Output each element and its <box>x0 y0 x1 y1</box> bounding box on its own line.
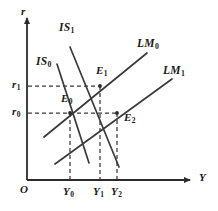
x-tick-Y0-subscript: 0 <box>70 190 74 199</box>
equilibrium-e2-subscript: 2 <box>132 116 136 125</box>
point-e2 <box>115 111 119 115</box>
curve-is0-base: IS <box>36 55 47 67</box>
curve-is1-subscript: 1 <box>71 26 75 35</box>
y-tick-label-r0: r0 <box>12 106 20 117</box>
axes-group <box>27 18 190 180</box>
x-axis-label: Y <box>199 172 206 183</box>
y-tick-r1-base: r <box>12 78 16 90</box>
x-tick-Y2-base: Y <box>111 185 118 197</box>
curves-group <box>44 47 172 167</box>
is-lm-diagram: r Y O r1 r0 Y0 Y1 Y2 IS0 IS1 LM0 LM1 E0 … <box>0 0 218 211</box>
curve-is0-subscript: 0 <box>48 60 52 69</box>
y-axis-label: r <box>21 6 25 17</box>
curve-label-is0: IS0 <box>36 56 51 68</box>
equilibrium-e1-base: E <box>96 64 104 76</box>
curve-lm0-subscript: 0 <box>155 42 159 51</box>
x-tick-label-Y2: Y2 <box>111 186 122 197</box>
point-e1 <box>98 84 102 88</box>
equilibrium-e1-subscript: 1 <box>104 69 108 78</box>
curve-lm1 <box>55 79 172 164</box>
equilibrium-e2-base: E <box>124 111 132 123</box>
x-tick-Y2-subscript: 2 <box>118 190 122 199</box>
x-tick-Y1-base: Y <box>93 185 100 197</box>
x-tick-label-Y1: Y1 <box>93 186 104 197</box>
curve-label-lm0: LM0 <box>137 38 159 50</box>
curve-label-lm1: LM1 <box>163 65 185 77</box>
origin-label: O <box>20 184 28 195</box>
x-tick-Y0-base: Y <box>63 185 70 197</box>
curve-is1-base: IS <box>59 21 70 33</box>
x-tick-Y1-subscript: 1 <box>100 190 104 199</box>
equilibrium-e0-base: E <box>61 92 69 104</box>
equilibrium-label-e0: E0 <box>61 93 72 104</box>
curve-is1 <box>70 47 119 167</box>
y-tick-r0-base: r <box>12 105 16 117</box>
equilibrium-label-e1: E1 <box>96 65 107 76</box>
y-tick-r1-subscript: 1 <box>17 83 21 92</box>
x-tick-label-Y0: Y0 <box>63 186 74 197</box>
y-tick-r0-subscript: 0 <box>17 110 21 119</box>
equilibrium-e0-subscript: 0 <box>69 97 73 106</box>
curve-lm0-base: LM <box>137 37 155 49</box>
diagram-canvas <box>0 0 218 211</box>
curve-label-is1: IS1 <box>59 22 74 34</box>
curve-lm1-subscript: 1 <box>181 69 185 78</box>
curve-lm1-base: LM <box>163 64 181 76</box>
equilibrium-label-e2: E2 <box>124 112 135 123</box>
point-e0 <box>68 111 72 115</box>
y-tick-label-r1: r1 <box>12 79 20 90</box>
